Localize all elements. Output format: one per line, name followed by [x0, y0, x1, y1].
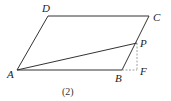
figure-caption: (2) — [62, 86, 74, 98]
label-f: F — [139, 65, 147, 77]
label-d: D — [41, 2, 50, 14]
segment-ap — [17, 43, 137, 70]
label-c: C — [153, 11, 161, 23]
segment-da — [17, 16, 48, 70]
parallelogram-diagram: A B C D P F (2) — [0, 0, 171, 101]
label-p: P — [139, 37, 147, 49]
label-a: A — [6, 68, 14, 80]
label-b: B — [115, 72, 122, 84]
